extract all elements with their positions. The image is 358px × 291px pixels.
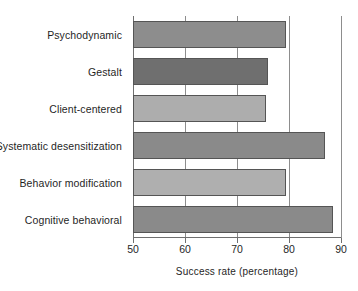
bar-row [133, 21, 341, 48]
bar-series [133, 16, 341, 238]
bar-row [133, 169, 341, 196]
bar-row [133, 58, 341, 85]
x-tick-label-50: 50 [127, 243, 139, 256]
category-axis-labels: Psychodynamic Gestalt Client-centered Sy… [0, 16, 128, 238]
category-label-cognitive-behavioral: Cognitive behavioral [25, 214, 128, 226]
x-axis-tick-labels: 50 60 70 80 90 [133, 243, 341, 257]
x-tick-label-60: 60 [179, 243, 191, 256]
bar-systematic-desensitization [133, 132, 325, 159]
plot-area [133, 16, 341, 238]
category-label-systematic-desensitization: Systematic desensitization [0, 140, 128, 152]
category-label-psychodynamic: Psychodynamic [47, 29, 128, 41]
x-tick-label-90: 90 [335, 243, 347, 256]
bar-row [133, 132, 341, 159]
category-label-client-centered: Client-centered [49, 103, 128, 115]
bar-behavior-modification [133, 169, 286, 196]
category-label-behavior-modification: Behavior modification [20, 177, 129, 189]
x-tick-label-70: 70 [231, 243, 243, 256]
bar-chart: Psychodynamic Gestalt Client-centered Sy… [0, 0, 358, 291]
bar-row [133, 206, 341, 233]
bar-row [133, 95, 341, 122]
bar-client-centered [133, 95, 266, 122]
bar-psychodynamic [133, 21, 286, 48]
category-label-gestalt: Gestalt [88, 66, 128, 78]
x-axis-title: Success rate (percentage) [133, 265, 341, 278]
x-tick-label-80: 80 [283, 243, 295, 256]
bar-cognitive-behavioral [133, 206, 333, 233]
gridline-90 [341, 16, 342, 238]
bar-gestalt [133, 58, 268, 85]
